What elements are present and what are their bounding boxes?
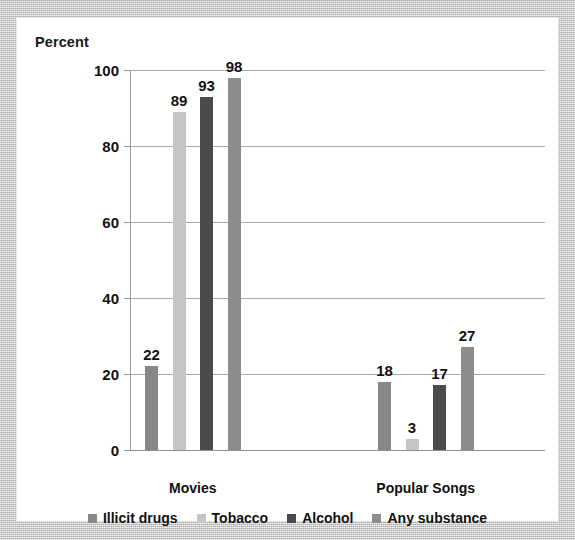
y-axis-title: Percent — [35, 34, 89, 50]
legend-item-alcohol[interactable]: Alcohol — [287, 510, 353, 526]
bar-movies-any-substance: 98 — [228, 78, 241, 450]
bar-value-label: 89 — [171, 92, 188, 109]
figure-frame: Percent 100806040200 228993981831727 Mov… — [0, 0, 575, 540]
legend-swatch-icon — [88, 514, 97, 523]
tick-mark-100 — [124, 70, 130, 71]
bar-popular-songs-illicit-drugs: 18 — [378, 382, 391, 450]
y-tick-label-0: 0 — [111, 442, 119, 459]
bar-popular-songs-any-substance: 27 — [461, 347, 474, 450]
y-tick-label-80: 80 — [102, 138, 119, 155]
bar-value-label: 22 — [143, 346, 160, 363]
chart-legend: Illicit drugsTobaccoAlcoholAny substance — [17, 510, 558, 526]
tick-mark-80 — [124, 146, 130, 147]
legend-label: Illicit drugs — [103, 510, 178, 526]
bar-value-label: 98 — [226, 58, 243, 75]
legend-label: Alcohol — [302, 510, 353, 526]
chart-canvas: Percent 100806040200 228993981831727 Mov… — [17, 18, 558, 521]
bar-value-label: 27 — [459, 327, 476, 344]
bar-value-label: 3 — [408, 419, 416, 436]
plot-area: 100806040200 228993981831727 — [130, 70, 545, 450]
gridline-80 — [130, 146, 545, 147]
category-label-popular-songs: Popular Songs — [376, 480, 475, 496]
bar-value-label: 17 — [431, 365, 448, 382]
bar-value-label: 18 — [376, 362, 393, 379]
tick-mark-60 — [124, 222, 130, 223]
legend-swatch-icon — [372, 514, 381, 523]
gridline-0 — [130, 450, 545, 451]
gridline-100 — [130, 70, 545, 71]
y-tick-label-60: 60 — [102, 214, 119, 231]
legend-label: Any substance — [387, 510, 487, 526]
bar-popular-songs-alcohol: 17 — [433, 385, 446, 450]
legend-label: Tobacco — [212, 510, 269, 526]
category-label-movies: Movies — [169, 480, 216, 496]
y-tick-label-100: 100 — [94, 62, 119, 79]
legend-item-illicit-drugs[interactable]: Illicit drugs — [88, 510, 178, 526]
legend-item-any-substance[interactable]: Any substance — [372, 510, 487, 526]
gridline-20 — [130, 374, 545, 375]
value-axis-line — [130, 70, 131, 450]
bar-popular-songs-tobacco: 3 — [406, 439, 419, 450]
bar-movies-tobacco: 89 — [173, 112, 186, 450]
gridline-40 — [130, 298, 545, 299]
tick-mark-20 — [124, 374, 130, 375]
tick-mark-40 — [124, 298, 130, 299]
y-tick-label-40: 40 — [102, 290, 119, 307]
legend-swatch-icon — [197, 514, 206, 523]
tick-mark-0 — [124, 450, 130, 451]
bar-value-label: 93 — [198, 77, 215, 94]
bar-movies-alcohol: 93 — [200, 97, 213, 450]
y-tick-label-20: 20 — [102, 366, 119, 383]
legend-item-tobacco[interactable]: Tobacco — [197, 510, 269, 526]
gridline-60 — [130, 222, 545, 223]
legend-swatch-icon — [287, 514, 296, 523]
bar-movies-illicit-drugs: 22 — [145, 366, 158, 450]
